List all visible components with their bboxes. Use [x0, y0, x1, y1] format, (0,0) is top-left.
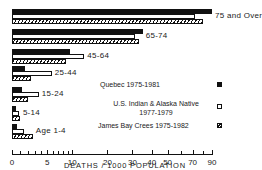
category-label: 25-44 — [55, 68, 77, 77]
x-tick — [68, 151, 69, 154]
legend-swatch-white — [217, 104, 222, 109]
category-label: 75 and Over — [215, 11, 262, 20]
x-tick — [168, 150, 169, 154]
x-tick — [47, 150, 48, 154]
bar-65-74-series-2 — [12, 39, 139, 44]
x-axis-line — [12, 154, 213, 155]
bar-5-14-series-2 — [12, 116, 20, 121]
x-tick — [72, 150, 73, 154]
category-label: Age 1-4 — [36, 126, 66, 135]
x-tick — [20, 151, 21, 154]
bar-age-1-4-series-2 — [12, 134, 33, 139]
legend-label-james-bay-crees: James Bay Crees 1975-1982 — [98, 121, 189, 130]
x-tick — [58, 151, 59, 154]
x-tick-label: 90 — [208, 158, 217, 167]
x-axis-label: DEATHS / 1000 POPULATION — [64, 161, 186, 170]
x-tick — [193, 150, 194, 154]
x-tick-label: 0 — [10, 158, 14, 167]
legend-swatch-hatched — [217, 123, 222, 128]
legend-label-us-indian-line2: 1977-1979 — [98, 108, 214, 117]
legend-label-quebec: Quebec 1975-1981 — [100, 80, 160, 89]
x-tick — [53, 151, 54, 154]
x-tick — [181, 151, 182, 154]
x-tick — [132, 150, 133, 154]
category-label: 15-24 — [42, 89, 64, 98]
x-tick — [12, 150, 13, 154]
legend-label-us-indian: U.S. Indian & Alaska Native 1977-1979 — [98, 99, 214, 117]
category-label: 5-14 — [23, 108, 40, 117]
x-tick — [203, 151, 204, 154]
category-label: 65-74 — [146, 31, 168, 40]
x-tick — [41, 151, 42, 154]
bar-45-64-series-2 — [12, 59, 66, 64]
bar-75-and-over-series-2 — [12, 19, 203, 24]
legend-swatch-solid — [217, 82, 222, 87]
x-tick — [35, 151, 36, 154]
x-tick-label: 70 — [188, 158, 197, 167]
bar-25-44-series-2 — [12, 76, 31, 81]
x-tick — [212, 150, 213, 154]
x-tick — [63, 151, 64, 154]
x-tick — [107, 150, 108, 154]
x-tick — [152, 150, 153, 154]
legend-label-us-indian-line1: U.S. Indian & Alaska Native — [98, 99, 214, 108]
x-tick — [28, 151, 29, 154]
category-label: 45-64 — [87, 51, 109, 60]
bar-15-24-series-2 — [12, 97, 28, 102]
x-tick-label: 5 — [45, 158, 49, 167]
